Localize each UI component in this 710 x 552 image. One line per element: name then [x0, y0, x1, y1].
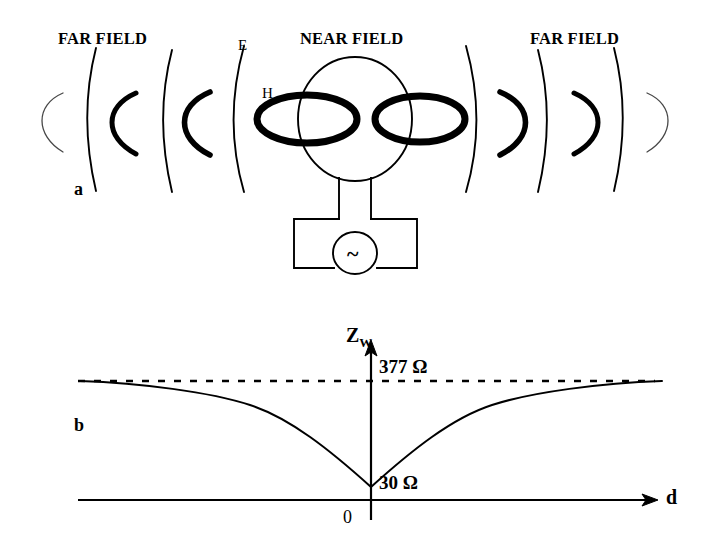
panel-b-chart [0, 0, 710, 552]
origin-label: 0 [343, 508, 352, 526]
figure-root: FAR FIELD NEAR FIELD FAR FIELD E H a ~ b… [0, 0, 710, 552]
y-axis-label-main: Z [346, 324, 359, 346]
minimum-value-label: 30 Ω [379, 473, 418, 492]
y-axis-label-subscript: W [359, 335, 372, 350]
x-axis-label: d [666, 487, 677, 507]
panel-b-label: b [74, 416, 84, 434]
y-axis-label: ZW [346, 325, 372, 349]
asymptote-value-label: 377 Ω [379, 357, 427, 376]
